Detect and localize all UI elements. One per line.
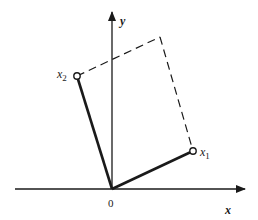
vector-x2	[77, 76, 112, 189]
vector-x1	[112, 151, 193, 189]
origin-label: 0	[108, 197, 114, 209]
x-axis-label: x	[224, 203, 231, 217]
dashed-edge-right	[160, 37, 193, 151]
point-x1-label: x1	[199, 145, 210, 161]
point-x1-marker	[190, 148, 196, 154]
dashed-edge-top	[77, 37, 160, 76]
y-axis-label: y	[118, 14, 126, 28]
point-x2-marker	[74, 73, 80, 79]
vector-diagram: y x 0 x2 x1	[0, 0, 258, 220]
point-x2-label: x2	[56, 67, 67, 83]
